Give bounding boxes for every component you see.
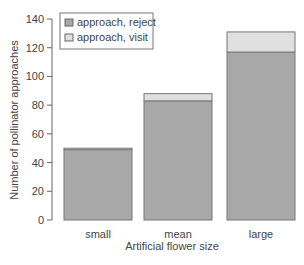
x-tick-label: mean [164, 228, 192, 240]
y-tick-label: 40 [32, 157, 44, 169]
legend: approach, rejectapproach, visit [60, 13, 156, 49]
y-tick-label: 120 [26, 42, 44, 54]
x-axis-labels: smallmeanlarge [85, 228, 273, 240]
bar-segment-reject [227, 52, 295, 220]
legend-label: approach, reject [77, 16, 156, 28]
y-tick-label: 20 [32, 185, 44, 197]
legend-swatch [65, 19, 73, 26]
y-axis: 020406080100120140 [26, 13, 52, 226]
legend-label: approach, visit [77, 31, 148, 43]
y-tick-label: 100 [26, 70, 44, 82]
bar-segment-visit [64, 148, 132, 149]
x-axis-title: Artificial flower size [125, 240, 219, 252]
bar-segment-visit [144, 94, 212, 101]
y-axis-title: Number of pollinator approaches [8, 40, 20, 200]
y-tick-label: 60 [32, 128, 44, 140]
bar-small [64, 148, 132, 220]
y-tick-label: 0 [38, 214, 44, 226]
bar-segment-visit [227, 32, 295, 52]
legend-swatch [65, 34, 73, 41]
stacked-bar-chart: 020406080100120140 smallmeanlarge Number… [0, 0, 304, 265]
bars [64, 32, 295, 220]
y-tick-label: 80 [32, 99, 44, 111]
bar-large [227, 32, 295, 220]
x-tick-label: large [249, 228, 273, 240]
bar-mean [144, 94, 212, 220]
bar-segment-reject [64, 150, 132, 220]
y-tick-label: 140 [26, 13, 44, 25]
bar-segment-reject [144, 101, 212, 220]
x-tick-label: small [85, 228, 111, 240]
